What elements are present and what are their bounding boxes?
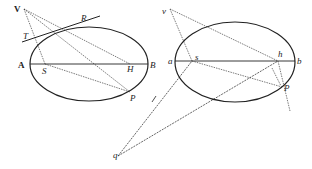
tangent-TR (22, 16, 100, 42)
line-qh (118, 61, 278, 156)
label-v: v (162, 6, 166, 16)
label-b: b (297, 56, 302, 66)
label-s: s (195, 52, 199, 62)
label-V: V (14, 4, 21, 14)
tick-mark (152, 96, 156, 102)
label-h: h (278, 49, 283, 59)
right-figure (118, 9, 295, 156)
diagram-canvas: V R T A S H B P v a s h b P q (0, 0, 312, 169)
line-vs (170, 9, 192, 61)
label-P-right: P (283, 83, 290, 93)
line-hP-short (272, 68, 281, 86)
line-qs (118, 61, 192, 156)
label-P: P (129, 93, 136, 103)
label-a: a (168, 56, 173, 66)
label-B: B (150, 60, 156, 70)
label-H: H (126, 64, 134, 74)
line-VP (24, 9, 130, 92)
label-S: S (42, 66, 47, 76)
line-vh (170, 9, 278, 61)
label-A: A (18, 60, 25, 70)
left-figure (22, 9, 156, 102)
line-sP (192, 61, 282, 87)
label-q: q (113, 150, 118, 160)
label-R: R (80, 13, 87, 23)
right-labels: v a s h b P q (113, 6, 302, 160)
line-SP (45, 64, 130, 92)
